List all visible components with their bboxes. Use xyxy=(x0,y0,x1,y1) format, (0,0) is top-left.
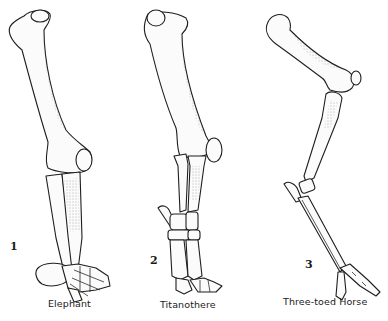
label-titanothere: Titanothere xyxy=(160,299,216,310)
titanothere-skeleton xyxy=(144,10,222,294)
illustration xyxy=(0,0,388,321)
specimen-number-3: 3 xyxy=(305,258,313,271)
three-toed-horse-skeleton xyxy=(266,15,380,300)
label-elephant: Elephant xyxy=(48,298,91,309)
specimen-number-1: 1 xyxy=(10,240,18,253)
label-three-toed-horse: Three-toed Horse xyxy=(283,296,367,307)
specimen-number-2: 2 xyxy=(150,254,158,267)
elephant-skeleton xyxy=(9,10,110,302)
